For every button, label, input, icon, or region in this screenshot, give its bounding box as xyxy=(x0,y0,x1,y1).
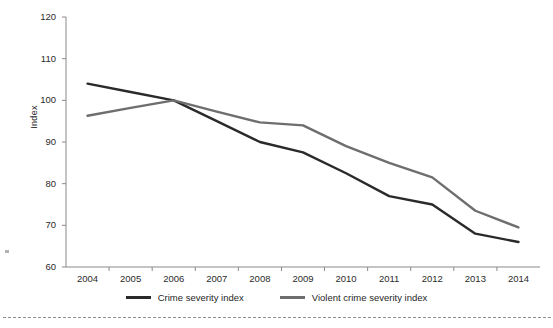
x-tick-marks xyxy=(109,267,497,271)
footer-dotted-rule xyxy=(2,316,551,319)
y-tick-label: 70 xyxy=(26,219,56,230)
x-tick-label: 2010 xyxy=(324,273,368,284)
chart-legend: Crime severity indexViolent crime severi… xyxy=(0,292,553,303)
x-tick-label: 2012 xyxy=(410,273,454,284)
x-tick-label: 2014 xyxy=(496,273,540,284)
legend-entry[interactable]: Violent crime severity index xyxy=(280,292,427,303)
legend-line-swatch xyxy=(126,296,151,299)
scan-artifact-mark xyxy=(5,250,9,253)
y-tick-label: 120 xyxy=(26,11,56,22)
legend-entry[interactable]: Crime severity index xyxy=(126,292,244,303)
x-tick-label: 2006 xyxy=(152,273,196,284)
legend-label: Violent crime severity index xyxy=(312,292,427,303)
plot-area xyxy=(0,0,553,300)
y-tick-label: 80 xyxy=(26,178,56,189)
line-chart-figure: Index 60708090100110120 2004200520062007… xyxy=(0,0,553,328)
series-lines xyxy=(88,84,519,242)
x-tick-label: 2013 xyxy=(453,273,497,284)
y-tick-marks xyxy=(62,17,66,267)
x-tick-label: 2005 xyxy=(109,273,153,284)
x-tick-label: 2011 xyxy=(367,273,411,284)
legend-line-swatch xyxy=(280,296,305,299)
y-tick-label: 90 xyxy=(26,136,56,147)
y-tick-label: 60 xyxy=(26,261,56,272)
x-tick-label: 2008 xyxy=(238,273,282,284)
x-tick-label: 2007 xyxy=(195,273,239,284)
y-tick-label: 110 xyxy=(26,53,56,64)
y-tick-label: 100 xyxy=(26,94,56,105)
series-line xyxy=(88,84,519,242)
series-line xyxy=(88,100,519,227)
x-tick-label: 2004 xyxy=(66,273,110,284)
x-tick-label: 2009 xyxy=(281,273,325,284)
legend-label: Crime severity index xyxy=(158,292,244,303)
